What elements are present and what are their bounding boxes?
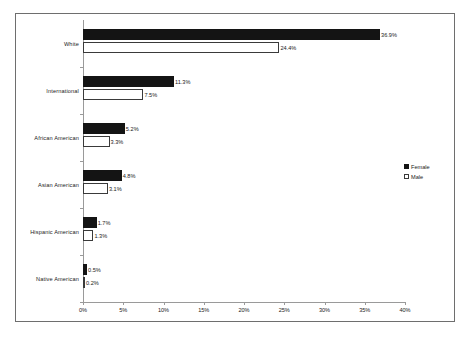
x-axis-tick-label: 15% [198, 307, 209, 313]
bar-female: 36.9% [83, 29, 380, 40]
bar-value-label: 4.8% [123, 173, 136, 179]
y-axis-tick [80, 67, 83, 68]
category-label: International [46, 88, 79, 94]
bar-female: 4.8% [83, 170, 122, 181]
category-label: White [64, 41, 79, 47]
bar-value-label: 1.3% [94, 233, 107, 239]
x-axis-tick-label: 5% [119, 307, 127, 313]
bar-male: 1.3% [83, 230, 93, 241]
x-axis-tick-label: 20% [238, 307, 249, 313]
x-axis-tick-label: 0% [79, 307, 87, 313]
chart-legend: FemaleMale [404, 163, 430, 183]
legend-item: Female [404, 163, 430, 170]
y-axis-tick [80, 114, 83, 115]
bar-value-label: 0.5% [88, 267, 101, 273]
bar-female: 0.5% [83, 264, 87, 275]
bar-value-label: 7.5% [144, 92, 157, 98]
bar-value-label: 3.3% [111, 139, 124, 145]
category-group: White36.9%24.4% [83, 20, 405, 67]
x-axis-tick-label: 40% [399, 307, 410, 313]
x-axis-tick [164, 302, 165, 305]
bar-male: 3.1% [83, 183, 108, 194]
x-axis-tick [123, 302, 124, 305]
bar-value-label: 0.2% [86, 280, 99, 286]
x-axis-tick [204, 302, 205, 305]
x-axis-tick-label: 30% [319, 307, 330, 313]
bar-female: 1.7% [83, 217, 97, 228]
bar-value-label: 36.9% [381, 32, 397, 38]
bar-male: 24.4% [83, 42, 279, 53]
category-label: Hispanic American [30, 229, 79, 235]
category-label: Native American [36, 276, 79, 282]
legend-item: Male [404, 173, 430, 180]
category-group: Asian American4.8%3.1% [83, 161, 405, 208]
category-group: International11.3%7.5% [83, 67, 405, 114]
legend-swatch-female [404, 164, 409, 169]
x-axis-tick [83, 302, 84, 305]
bar-value-label: 3.1% [109, 186, 122, 192]
x-axis-tick [325, 302, 326, 305]
category-label: African American [34, 135, 79, 141]
category-group: Native American0.5%0.2% [83, 255, 405, 302]
legend-label: Male [411, 174, 423, 180]
legend-swatch-male [404, 174, 409, 179]
bar-male: 0.2% [83, 277, 85, 288]
y-axis-tick [80, 161, 83, 162]
x-axis-tick-label: 35% [359, 307, 370, 313]
x-axis-tick [284, 302, 285, 305]
category-group: Hispanic American1.7%1.3% [83, 208, 405, 255]
category-group: African American5.2%3.3% [83, 114, 405, 161]
y-axis-tick [80, 255, 83, 256]
x-axis-tick-label: 25% [279, 307, 290, 313]
x-axis-tick-label: 10% [158, 307, 169, 313]
bar-female: 11.3% [83, 76, 174, 87]
bar-value-label: 1.7% [98, 220, 111, 226]
x-axis-tick [365, 302, 366, 305]
bar-female: 5.2% [83, 123, 125, 134]
y-axis-tick [80, 208, 83, 209]
bar-male: 7.5% [83, 89, 143, 100]
bar-value-label: 5.2% [126, 126, 139, 132]
bar-value-label: 24.4% [280, 45, 296, 51]
legend-label: Female [411, 164, 430, 170]
bar-male: 3.3% [83, 136, 110, 147]
x-axis-tick [244, 302, 245, 305]
category-label: Asian American [38, 182, 79, 188]
x-axis-tick [405, 302, 406, 305]
bar-value-label: 11.3% [175, 79, 190, 85]
chart-frame: White36.9%24.4%International11.3%7.5%Afr… [15, 13, 455, 322]
